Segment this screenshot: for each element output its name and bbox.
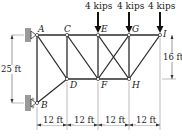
node-label-H: H [132,81,140,90]
dim-label-2: 12 ft [74,116,94,125]
dim-label-1: 12 ft [43,116,63,125]
node-label-G: G [132,25,139,34]
load-label-I: 4 kips [148,2,175,11]
node-label-C: C [64,25,71,34]
member-HI [129,35,160,79]
dimension-arrowheads [11,35,174,127]
node-label-F: F [101,81,107,90]
member-AD [37,35,67,79]
support-A [25,28,36,42]
dim-label-25ft: 25 ft [1,65,21,74]
member-CF [67,35,98,79]
dim-label-3: 12 ft [105,116,125,125]
load-label-G: 4 kips [117,2,144,11]
node-label-E: E [101,25,108,34]
node-label-I: I [163,30,167,39]
dimension-lines [12,35,172,125]
support-B [25,95,36,111]
node-label-D: D [70,81,77,90]
dim-label-4: 12 ft [136,116,156,125]
node-label-B: B [41,101,48,110]
truss-figure: A C E G I B D F H 4 kips 4 kips 4 kips 1… [0,0,182,140]
node-label-A: A [38,25,45,34]
dim-label-16ft: 16 ft [163,53,182,62]
load-label-E: 4 kips [85,2,112,11]
